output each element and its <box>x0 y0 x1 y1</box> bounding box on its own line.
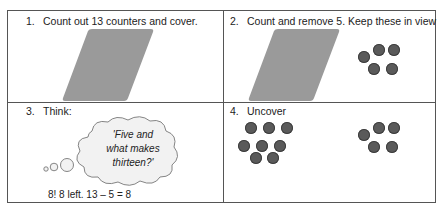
step-3-number: 3. <box>26 105 43 117</box>
counter-icon <box>281 122 293 134</box>
cover-sheet-icon <box>60 28 155 102</box>
cover-sheet-icon <box>246 28 341 102</box>
counter-icon <box>373 44 385 56</box>
step-3-answer: 8! 8 left. 13 – 5 = 8 <box>48 189 131 200</box>
counter-icon <box>256 140 268 152</box>
counter-icon <box>245 122 257 134</box>
counter-icon <box>250 152 262 164</box>
counter-icon <box>263 122 275 134</box>
step-1-cell: 1.Count out 13 counters and cover. <box>8 11 223 102</box>
step-1-text: Count out 13 counters and cover. <box>43 15 198 27</box>
step-2-text: Count and remove 5. Keep these in view <box>247 15 436 27</box>
step-4-title: 4.Uncover <box>230 105 286 117</box>
step-2-cell: 2.Count and remove 5. Keep these in view <box>224 11 437 102</box>
counter-icon <box>238 140 250 152</box>
step-1-number: 1. <box>26 15 43 27</box>
step-4-cell: 4.Uncover <box>224 103 437 203</box>
counter-icon <box>267 152 279 164</box>
step-3-cell: 3.Think: 'Five and what makes thirteen?'… <box>8 103 223 203</box>
counter-icon <box>388 122 400 134</box>
thought-bubble-text: 'Five and what makes thirteen?' <box>98 128 168 170</box>
counter-icon <box>386 141 398 153</box>
step-4-number: 4. <box>230 105 247 117</box>
counter-icon <box>368 63 380 75</box>
counter-icon <box>373 122 385 134</box>
counter-icon <box>386 63 398 75</box>
counter-icon <box>358 51 370 63</box>
step-2-number: 2. <box>230 15 247 27</box>
counter-icon <box>358 129 370 141</box>
counter-icon <box>388 44 400 56</box>
step-4-text: Uncover <box>247 105 286 117</box>
step-1-title: 1.Count out 13 counters and cover. <box>26 15 198 27</box>
instruction-grid: 1.Count out 13 counters and cover. 2.Cou… <box>7 10 436 203</box>
counter-icon <box>274 140 286 152</box>
counter-icon <box>368 141 380 153</box>
step-2-title: 2.Count and remove 5. Keep these in view <box>230 15 436 27</box>
